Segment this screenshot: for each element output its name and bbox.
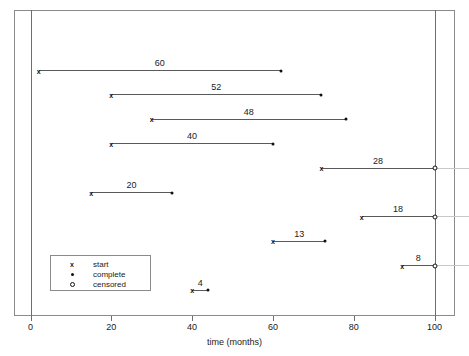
axis-line-hundred — [435, 10, 436, 316]
x-tick-40 — [192, 316, 193, 321]
x-tick-80 — [354, 316, 355, 321]
x-axis-title: time (months) — [0, 337, 469, 347]
axis-line-zero — [31, 10, 32, 316]
x-tick-0 — [31, 316, 32, 321]
survival-timeline-chart: x60x52x48x40x28x20x18x13x8x4 02040608010… — [0, 0, 469, 356]
censored-circle-icon — [67, 279, 77, 290]
x-tick-20 — [111, 316, 112, 321]
legend-label-censored: censored — [93, 279, 126, 290]
x-tick-label-20: 20 — [106, 322, 116, 332]
x-tick-label-80: 80 — [349, 322, 359, 332]
legend-item-censored: censored — [51, 279, 152, 290]
x-tick-100 — [435, 316, 436, 321]
x-tick-label-60: 60 — [268, 322, 278, 332]
x-tick-label-100: 100 — [427, 322, 442, 332]
x-tick-60 — [273, 316, 274, 321]
x-tick-label-0: 0 — [28, 322, 33, 332]
legend: x start complete censored — [50, 255, 151, 291]
x-tick-label-40: 40 — [187, 322, 197, 332]
